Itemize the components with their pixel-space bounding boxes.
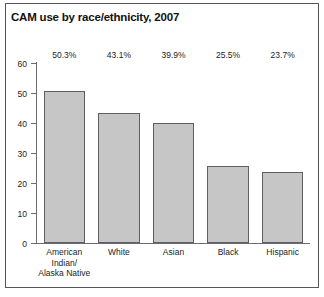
x-label-asian: Asian bbox=[146, 247, 201, 279]
y-tick-label-50: 50 bbox=[18, 89, 27, 99]
x-axis-labels: American Indian/ Alaska Native White Asi… bbox=[37, 247, 310, 279]
x-label-white: White bbox=[92, 247, 147, 279]
y-tick-label-60: 60 bbox=[18, 59, 27, 69]
x-label-line-1: Asian bbox=[146, 247, 201, 258]
x-label-line-1: American bbox=[37, 247, 92, 258]
x-label-line-1: White bbox=[92, 247, 147, 258]
bar-value-hispanic: 23.7% bbox=[271, 50, 295, 60]
y-tick-label-0: 0 bbox=[22, 239, 27, 249]
bar-slot-hispanic: 23.7% bbox=[255, 62, 310, 243]
x-label-american-indian-alaska-native: American Indian/ Alaska Native bbox=[37, 247, 92, 279]
bar-value-asian: 39.9% bbox=[161, 50, 185, 60]
x-label-line-1: Black bbox=[201, 247, 256, 258]
x-label-line-3: Alaska Native bbox=[37, 268, 92, 279]
bar-hispanic[interactable]: 23.7% bbox=[262, 172, 303, 244]
bar-american-indian-alaska-native[interactable]: 50.3% bbox=[44, 91, 85, 243]
x-label-line-2: Indian/ bbox=[37, 258, 92, 269]
chart-figure: CAM use by race/ethnicity, 2007 0 10 20 … bbox=[0, 0, 324, 297]
bar-slot-white: 43.1% bbox=[92, 62, 147, 243]
y-tick-label-30: 30 bbox=[18, 149, 27, 159]
y-tick-60: 60 bbox=[31, 63, 36, 64]
chart-title: CAM use by race/ethnicity, 2007 bbox=[11, 11, 179, 23]
x-label-black: Black bbox=[201, 247, 256, 279]
bar-value-black: 25.5% bbox=[216, 50, 240, 60]
y-tick-label-20: 20 bbox=[18, 179, 27, 189]
y-tick-40: 40 bbox=[31, 123, 36, 124]
y-tick-30: 30 bbox=[31, 153, 36, 154]
bar-value-white: 43.1% bbox=[107, 50, 131, 60]
bar-asian[interactable]: 39.9% bbox=[153, 123, 194, 243]
bar-value-american-indian-alaska-native: 50.3% bbox=[52, 50, 76, 60]
y-tick-label-40: 40 bbox=[18, 119, 27, 129]
bar-group: 50.3% 43.1% 39.9% 25.5% 23.7% bbox=[37, 62, 310, 243]
y-tick-50: 50 bbox=[31, 93, 36, 94]
x-axis-line bbox=[36, 243, 310, 244]
y-tick-10: 10 bbox=[31, 213, 36, 214]
figure-caption bbox=[11, 291, 311, 297]
bar-slot-american-indian-alaska-native: 50.3% bbox=[37, 62, 92, 243]
bar-slot-asian: 39.9% bbox=[146, 62, 201, 243]
y-tick-20: 20 bbox=[31, 183, 36, 184]
bar-black[interactable]: 25.5% bbox=[207, 166, 248, 243]
y-tick-label-10: 10 bbox=[18, 209, 27, 219]
bar-white[interactable]: 43.1% bbox=[98, 113, 139, 243]
bar-slot-black: 25.5% bbox=[201, 62, 256, 243]
x-label-hispanic: Hispanic bbox=[255, 247, 310, 279]
plot-area: 0 10 20 30 40 50 60 50.3% bbox=[36, 62, 310, 244]
y-tick-0: 0 bbox=[31, 243, 36, 244]
x-label-line-1: Hispanic bbox=[255, 247, 310, 258]
